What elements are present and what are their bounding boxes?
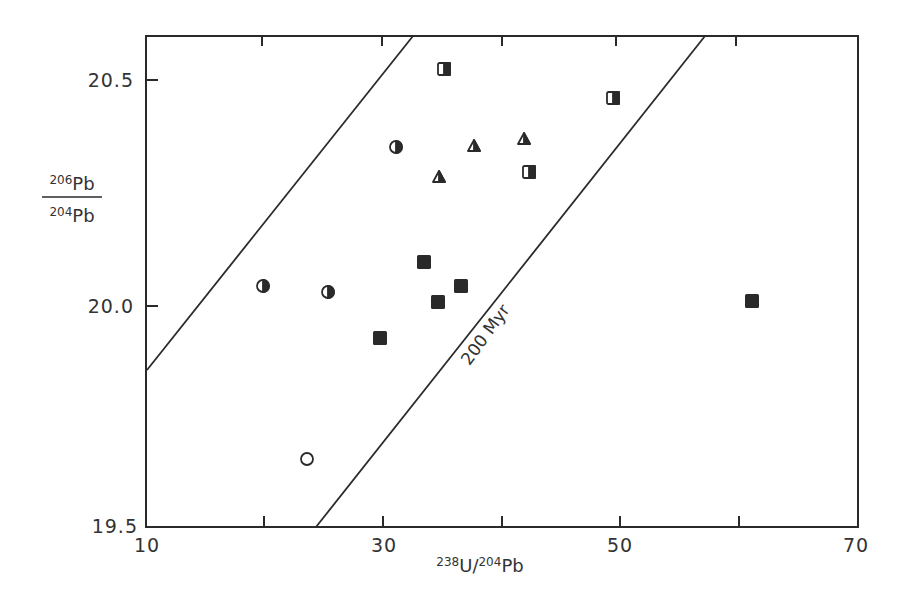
x-tick-50: 50 [607, 534, 633, 556]
y-axis-label: 206Pb 204Pb [42, 173, 102, 226]
marker-open-circle [301, 453, 313, 465]
markers-half-square [438, 63, 619, 178]
svg-text:206Pb: 206Pb [49, 173, 94, 194]
upper-isochron-line [147, 36, 413, 370]
isochron-annotation: 200 Myr [457, 300, 514, 368]
y-ticks [146, 80, 158, 306]
svg-text:204Pb: 204Pb [49, 205, 94, 226]
scatter-chart: 20.5 20.0 19.5 10 30 50 70 206Pb 204Pb 2… [0, 0, 899, 606]
x-tick-70: 70 [843, 534, 869, 556]
y-tick-19.5: 19.5 [92, 515, 138, 537]
y-tick-20.5: 20.5 [88, 69, 134, 91]
markers-half-circle [257, 141, 402, 298]
y-tick-20.0: 20.0 [88, 295, 134, 317]
x-tick-10: 10 [134, 534, 160, 556]
markers-half-triangle [433, 133, 530, 182]
x-tick-30: 30 [371, 534, 397, 556]
200-myr-isochron-line [316, 36, 705, 527]
x-ticks [262, 36, 739, 527]
x-axis-label: 238U/204Pb [436, 555, 523, 576]
plot-frame [146, 36, 858, 527]
markers-filled-square [373, 255, 759, 345]
